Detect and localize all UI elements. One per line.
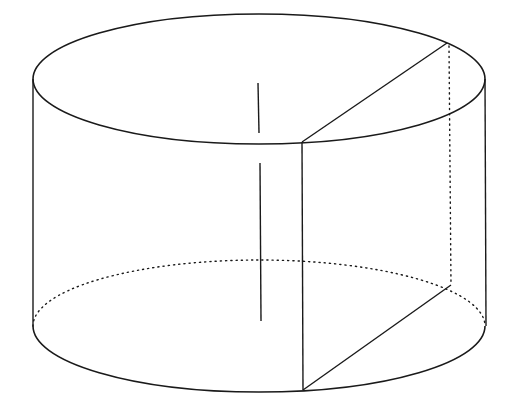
axis-line-segment xyxy=(260,163,261,321)
right-generatrix-line xyxy=(485,79,486,326)
section-hidden-edge-line xyxy=(449,46,451,285)
bottom-base-hidden-arc xyxy=(33,260,485,326)
axis-line-segment xyxy=(258,83,259,133)
diagram-shapes xyxy=(33,14,486,392)
section-edge-line xyxy=(302,142,303,390)
section-edge-line xyxy=(302,43,447,142)
bottom-base-front-arc xyxy=(33,326,485,392)
cylinder-diagram xyxy=(0,0,508,409)
section-edge-line xyxy=(303,285,451,390)
